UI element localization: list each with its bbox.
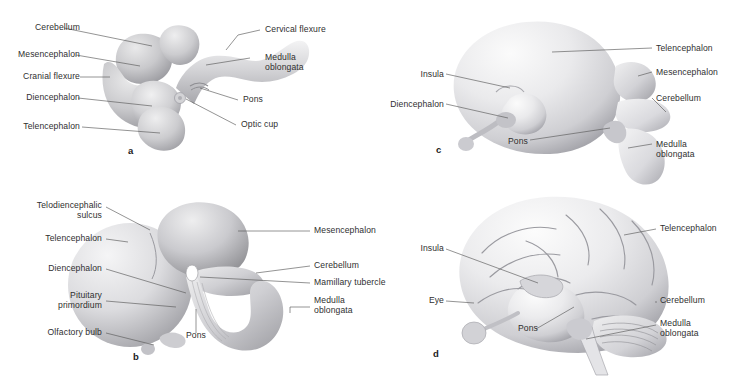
- panel-a-letter: a: [128, 145, 133, 156]
- panel-d-label-eye: Eye: [429, 295, 444, 305]
- panel-c-label-telencephalon: Telencephalon: [656, 43, 713, 53]
- panel-d-letter: d: [433, 348, 439, 359]
- panel-d-label-cerebellum: Cerebellum: [660, 295, 705, 305]
- panel-b: Telodiencephalic sulcus Telencephalon Di…: [0, 185, 380, 378]
- panel-c-label-medulla-oblongata: Medulla oblongata: [656, 139, 695, 160]
- panel-b-label-medulla-oblongata: Medulla oblongata: [314, 295, 353, 316]
- panel-a-label-cerebellum: Cerebellum: [35, 22, 80, 32]
- panel-a-label-medulla-oblongata: Medulla oblongata: [265, 52, 304, 73]
- panel-d: Insula Eye Telencephalon Cerebellum Medu…: [370, 185, 747, 378]
- panel-c: Insula Diencephalon Telencephalon Mesenc…: [370, 0, 747, 190]
- panel-c-label-pons: Pons: [508, 136, 528, 146]
- panel-a-label-telencephalon: Telencephalon: [23, 121, 80, 131]
- panel-b-label-cerebellum: Cerebellum: [314, 260, 359, 270]
- panel-c-label-cerebellum: Cerebellum: [656, 93, 701, 103]
- panel-b-label-mesencephalon: Mesencephalon: [314, 225, 376, 235]
- panel-a: Cerebellum Mesencephalon Cranial flexure…: [0, 0, 380, 190]
- panel-b-letter: b: [133, 351, 139, 362]
- panel-c-label-diencephalon: Diencephalon: [390, 99, 444, 109]
- panel-a-label-optic-cup: Optic cup: [241, 119, 278, 129]
- panel-d-label-telencephalon: Telencephalon: [660, 223, 717, 233]
- panel-b-label-pons: Pons: [186, 330, 206, 340]
- panel-d-illustration: [370, 185, 747, 378]
- panel-b-label-diencephalon: Diencephalon: [48, 263, 102, 273]
- panel-d-label-insula: Insula: [420, 243, 444, 253]
- panel-b-label-telencephalon: Telencephalon: [45, 233, 102, 243]
- panel-b-label-pituitary-primordium: Pituitary primordium: [58, 290, 102, 311]
- panel-d-label-pons: Pons: [518, 323, 538, 333]
- panel-c-letter: c: [436, 144, 441, 155]
- panel-a-label-mesencephalon: Mesencephalon: [18, 49, 80, 59]
- panel-b-label-telodiencephalic-sulcus: Telodiencephalic sulcus: [37, 200, 102, 221]
- panel-a-label-diencephalon: Diencephalon: [26, 92, 80, 102]
- panel-a-label-cranial-flexure: Cranial flexure: [23, 71, 80, 81]
- panel-a-label-pons: Pons: [243, 94, 263, 104]
- panel-d-label-medulla-oblongata: Medulla oblongata: [660, 318, 699, 339]
- panel-c-label-insula: Insula: [420, 69, 444, 79]
- panel-b-label-olfactory-bulb: Olfactory bulb: [48, 327, 102, 337]
- brain-development-figure: Cerebellum Mesencephalon Cranial flexure…: [0, 0, 747, 378]
- panel-a-label-cervical-flexure: Cervical flexure: [265, 24, 326, 34]
- panel-c-label-mesencephalon: Mesencephalon: [656, 67, 718, 77]
